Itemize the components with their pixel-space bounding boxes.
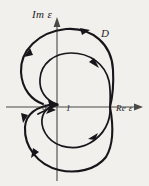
origin-marker-label: 0 [42, 103, 47, 112]
real-axis-label: Re ε [116, 104, 133, 113]
figure-canvas [0, 0, 149, 186]
unit-marker-label: 1 [66, 104, 71, 113]
contour-label-d: D [101, 28, 109, 39]
figure-background [0, 0, 149, 186]
complex-plane-figure: Im ε Re ε D 0 1 [0, 0, 149, 186]
imaginary-axis-label: Im ε [32, 9, 52, 20]
